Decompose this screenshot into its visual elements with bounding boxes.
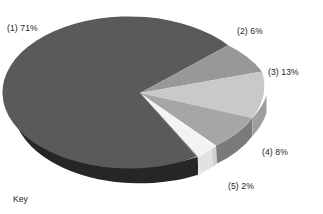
slice-1-label: (1) 71% <box>7 24 38 33</box>
pie-chart: (1) 71% (2) 6% (3) 13% (4) 8% (5) 2% Key <box>0 0 323 214</box>
key-heading: Key <box>13 195 28 204</box>
slice-3-label: (3) 13% <box>268 68 299 77</box>
slice-5-label: (5) 2% <box>228 182 254 191</box>
slice-4-label: (4) 8% <box>262 148 288 157</box>
pie-chart-graphic <box>0 0 323 214</box>
slice-2-label: (2) 6% <box>237 27 263 36</box>
